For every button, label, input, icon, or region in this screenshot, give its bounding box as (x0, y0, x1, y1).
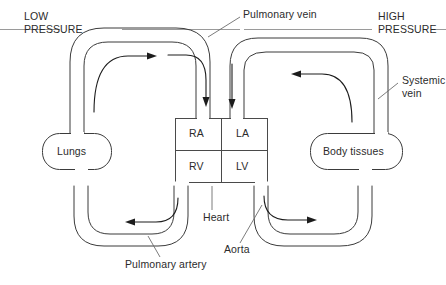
aorta-leader (240, 205, 262, 243)
organ-label-body-tissues: Body tissues (323, 145, 384, 158)
flow-arrow-pulmonary-artery-head (125, 219, 135, 226)
annotation-systemic-vein: Systemic vein (402, 74, 445, 99)
heart-bottom-right-junction-mask (255, 182, 269, 185)
aorta-inner-wall (268, 186, 358, 234)
pulmonary-vein-outer-wall (70, 28, 210, 140)
chamber-label-la: LA (236, 127, 249, 140)
pulmonary-vein-leader (208, 17, 240, 37)
circulatory-diagram: LOW PRESSURE HIGH PRESSURE RA LA RV LV L… (0, 0, 446, 285)
organ-label-lungs: Lungs (57, 145, 86, 158)
body-bottom-junction-mask (359, 167, 372, 171)
low-pressure-label: LOW PRESSURE (24, 10, 83, 36)
flow-arrow-systemic-vein-path (300, 74, 352, 122)
flow-arrow-into-ra-head (203, 97, 210, 107)
pulmonary-artery-inner-wall (88, 186, 174, 234)
heart-bottom-left-junction-mask (175, 182, 189, 185)
high-pressure-label: HIGH PRESSURE (378, 10, 437, 36)
chamber-label-lv: LV (236, 160, 248, 173)
diagram-canvas (0, 0, 446, 285)
annotation-pulmonary-vein: Pulmonary vein (243, 8, 317, 21)
pulmonary-artery-outer-wall (74, 186, 188, 246)
flow-arrow-aorta-path (264, 196, 308, 220)
flow-arrow-systemic-vein-head (291, 71, 301, 78)
annotation-heart: Heart (203, 211, 229, 224)
body-top-junction-mask (375, 132, 388, 136)
lungs-top-junction-mask (71, 132, 84, 136)
flow-arrow-aorta-head (307, 217, 317, 224)
annotation-pulmonary-artery: Pulmonary artery (125, 258, 207, 271)
chamber-label-ra: RA (189, 127, 204, 140)
flow-arrow-into-ra-path (168, 55, 206, 98)
pulmonary-vein-inner-wall (84, 42, 196, 140)
flow-arrow-pulmonary-artery-path (134, 198, 178, 222)
chamber-label-rv: RV (189, 160, 204, 173)
heart-top-right-junction-mask (231, 117, 243, 120)
annotation-aorta: Aorta (224, 243, 250, 256)
systemic-vein-inner-wall (244, 52, 374, 140)
heart-top-left-junction-mask (197, 117, 209, 120)
lungs-bottom-junction-mask (75, 167, 88, 171)
flow-arrow-pulmonary-vein-path (94, 56, 148, 112)
flow-arrow-pulmonary-vein-head (147, 53, 157, 60)
